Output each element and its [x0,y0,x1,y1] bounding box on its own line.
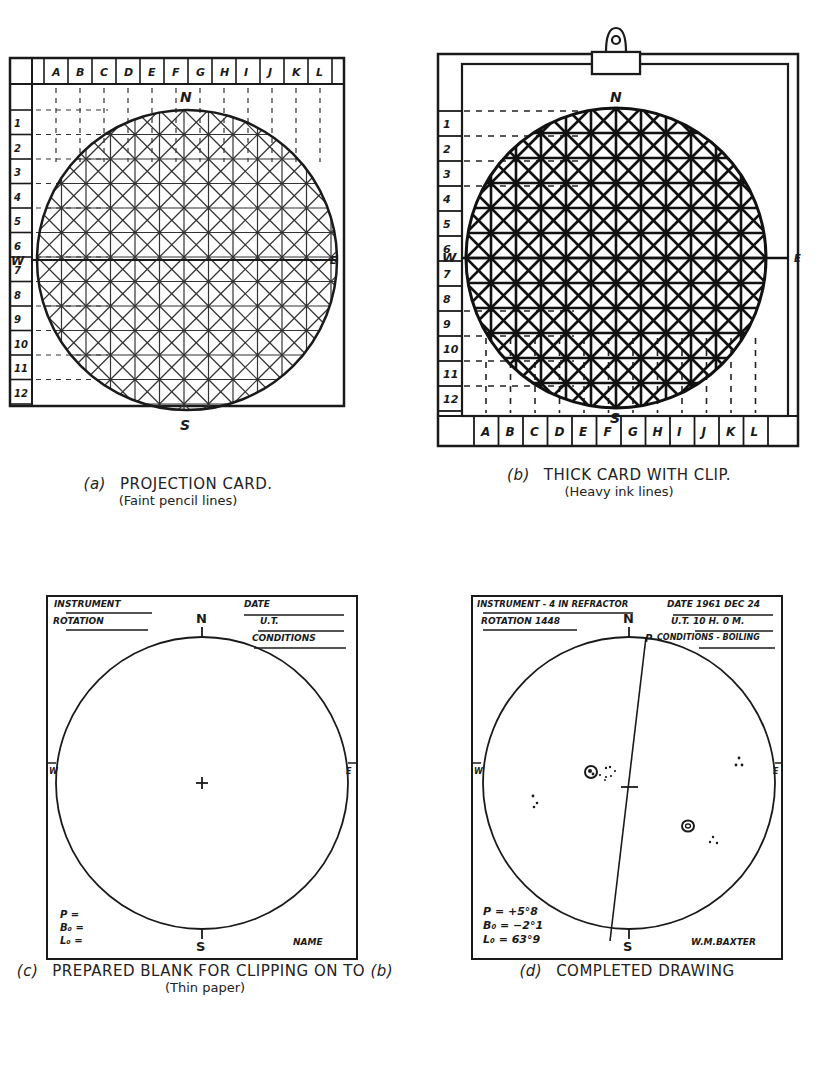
row-label: 3 [443,168,451,181]
column-label: I [244,66,248,79]
column-label: G [628,425,638,439]
caption-c: (c)PREPARED BLANK FOR CLIPPING ON TO (b)… [0,962,410,995]
row-label: 6 [14,241,21,252]
south-label: S [610,410,620,426]
field-date: DATE 1961 DEC 24 [667,599,760,609]
west-label: W [49,767,58,776]
east-label: E [330,255,337,266]
column-label: K [726,425,737,439]
column-label: C [100,66,108,79]
sunspot-group-4 [682,821,718,845]
caption-c-ref: (b) [370,962,393,980]
caption-c-subtitle: (Thin paper) [0,980,410,995]
field-instrument: INSTRUMENT - 4 IN REFRACTOR [477,599,628,609]
column-label: G [196,66,205,79]
column-label: J [700,425,707,439]
row-label: 12 [443,393,459,406]
field-rotation: ROTATION [53,616,104,626]
column-label: H [653,425,663,439]
west-label: W [442,250,457,265]
rotation-axis [610,637,646,941]
field-name: W.M.BAXTER [691,937,756,947]
panel-c-prepared-blank: INSTRUMENT ROTATION DATE U.T. CONDITIONS… [46,595,358,960]
caption-c-tag: (c) [17,962,38,980]
column-label: A [51,66,61,79]
column-label: D [555,425,565,439]
row-label: 8 [14,290,21,301]
rotation-axis-label: P [645,633,652,644]
panel-b-thick-card: 123456789101112 ABCDEFGHIJKL N S E W [434,18,804,464]
column-label: B [76,66,84,79]
sunspot-group-2 [532,795,539,809]
field-conditions: CONDITIONS - BOILING [657,633,760,642]
blank-disk-drawing [48,597,356,957]
row-label: 10 [443,343,459,356]
completed-disk-drawing [473,597,781,957]
field-instrument: INSTRUMENT [54,599,121,609]
sunspot-group-1 [585,766,616,781]
row-label: 1 [443,118,451,131]
north-label: N [180,89,192,105]
column-label: B [506,425,515,439]
row-label: 9 [14,314,21,325]
caption-b-subtitle: (Heavy ink lines) [434,484,804,499]
column-label: C [530,425,539,439]
caption-a-subtitle: (Faint pencil lines) [8,493,348,508]
row-label: 2 [443,143,451,156]
row-label: 11 [443,368,458,381]
row-label: 11 [14,363,28,374]
field-ut: U.T. 10 H. 0 M. [671,616,744,626]
caption-b: (b)THICK CARD WITH CLIP. (Heavy ink line… [434,466,804,499]
row-label: 9 [443,318,451,331]
row-label: 5 [443,218,451,231]
column-label: J [266,66,272,79]
column-label: L [751,425,759,439]
caption-a-title: PROJECTION CARD. [120,475,273,493]
west-label: W [11,254,24,268]
south-label: S [623,939,632,954]
field-l0: L₀ = [60,935,83,946]
column-label: E [148,66,156,79]
row-label: 1 [14,118,21,129]
field-name: NAME [293,937,323,947]
field-p: P = +5°8 [483,905,538,918]
panel-d-completed-drawing: INSTRUMENT - 4 IN REFRACTOR ROTATION 144… [471,595,783,960]
sunspot-group-3 [735,757,744,767]
caption-c-title: PREPARED BLANK FOR CLIPPING ON TO [52,962,365,980]
field-ut: U.T. [260,616,279,626]
projection-card-drawing: ABCDEFGHIJKL 123456789101112 N S E [8,52,348,472]
column-label: D [124,66,133,79]
caption-a-tag: (a) [84,475,106,493]
row-label: 3 [14,167,21,178]
east-label: E [794,253,801,264]
column-label: F [172,66,180,79]
south-label: S [196,939,205,954]
row-label: 7 [443,268,451,281]
panel-a-projection-card: ABCDEFGHIJKL 123456789101112 N S E W [8,52,348,472]
column-label: E [579,425,588,439]
caption-d-tag: (d) [519,962,542,980]
column-label: H [220,66,229,79]
caption-b-title: THICK CARD WITH CLIP. [544,466,731,484]
east-label: E [346,767,351,776]
field-date: DATE [244,599,270,609]
west-label: W [474,767,483,776]
field-p: P = [60,909,79,920]
row-label: 4 [442,193,451,206]
row-label: 2 [14,143,21,154]
column-label: L [316,66,323,79]
north-label: N [623,611,634,626]
row-label: 8 [443,293,451,306]
row-label: 12 [14,388,28,399]
center-cross-icon [196,777,208,789]
thick-card-drawing: 123456789101112 ABCDEFGHIJKL N S E W [434,18,804,464]
north-label: N [610,89,622,105]
caption-d-title: COMPLETED DRAWING [556,962,734,980]
row-label: 4 [13,192,21,203]
column-label: F [604,425,613,439]
row-label: 5 [14,216,21,227]
east-label: E [773,767,778,776]
south-label: S [180,417,190,433]
field-rotation: ROTATION 1448 [481,616,560,626]
column-label: A [480,425,490,439]
